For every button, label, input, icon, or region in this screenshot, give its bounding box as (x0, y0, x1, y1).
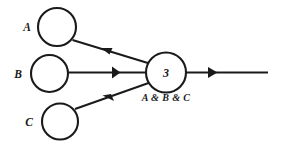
threshold-node[interactable]: 3 (146, 53, 186, 93)
input-node-c-label: C (25, 116, 33, 128)
output-arrowhead (208, 67, 218, 78)
logic-expression-label: A & B & C (141, 92, 191, 103)
edge-a-arrowhead (101, 48, 113, 55)
input-node-a[interactable]: A (22, 8, 76, 46)
input-node-b-label: B (13, 68, 22, 80)
edge-a-line (73, 40, 150, 64)
input-node-b[interactable]: B (13, 55, 68, 92)
input-node-c[interactable]: C (25, 104, 78, 140)
diagram-canvas: A B C 3 A & B & C (0, 0, 281, 152)
input-node-b-circle[interactable] (31, 55, 68, 92)
logic-diagram: A B C 3 A & B & C (0, 0, 281, 152)
input-node-c-circle[interactable] (42, 104, 78, 140)
edge-a-to-threshold (73, 40, 150, 64)
edge-c-to-threshold (75, 83, 150, 110)
input-node-a-circle[interactable] (38, 8, 76, 46)
edge-b-to-threshold (68, 67, 147, 79)
edge-c-line (75, 83, 150, 110)
edge-b-arrowhead (112, 67, 121, 79)
threshold-value-label: 3 (162, 66, 169, 80)
edge-threshold-to-output (186, 67, 268, 78)
input-node-a-label: A (22, 21, 31, 33)
